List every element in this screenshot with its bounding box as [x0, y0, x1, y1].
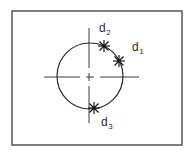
star-marker-icon-d2: [98, 40, 110, 52]
diagram-canvas: d1d2d3: [0, 0, 191, 157]
star-marker-icon-d1: [113, 55, 125, 67]
star-marker-icon-d3: [88, 102, 100, 114]
background: [0, 0, 191, 157]
